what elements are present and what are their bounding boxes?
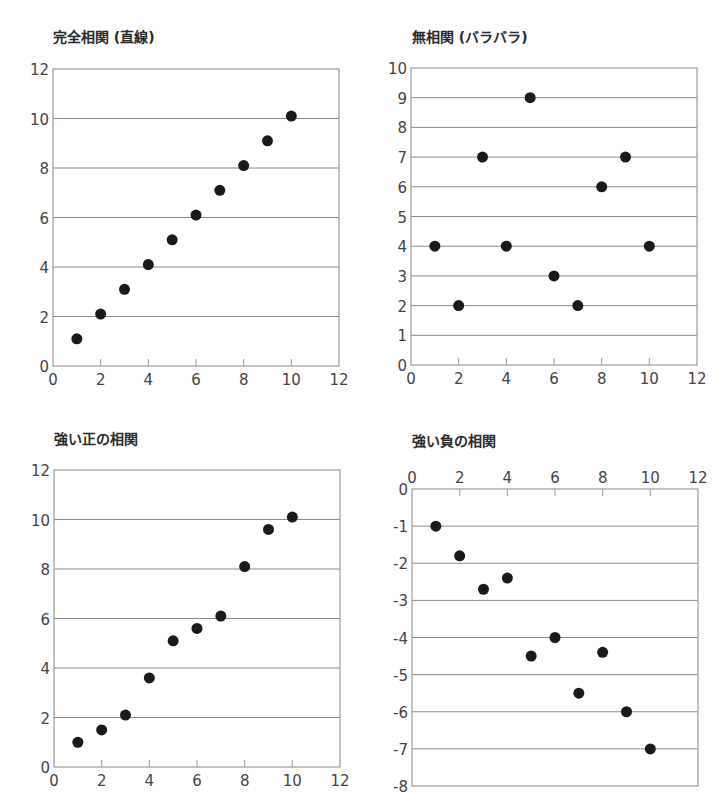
x-tick-label: 0	[407, 469, 417, 487]
data-point	[621, 706, 632, 717]
y-tick-label: -3	[393, 592, 408, 610]
y-tick-label: -2	[393, 555, 408, 573]
y-tick-label: -7	[393, 741, 408, 759]
x-tick-label: 6	[550, 469, 560, 487]
data-point	[454, 550, 465, 561]
y-tick-label: -6	[393, 704, 408, 722]
data-point	[430, 521, 441, 532]
scatter-chart-strong-negative: 0-1-2-3-4-5-6-7-8024681012	[0, 0, 723, 812]
y-tick-label: -5	[393, 667, 408, 685]
x-tick-label: 12	[688, 469, 707, 487]
data-point	[573, 688, 584, 699]
x-tick-label: 8	[598, 469, 608, 487]
y-tick-label: -1	[393, 518, 408, 536]
data-point	[502, 573, 513, 584]
x-tick-label: 10	[641, 469, 660, 487]
x-tick-label: 4	[503, 469, 513, 487]
data-point	[550, 632, 561, 643]
data-point	[526, 651, 537, 662]
data-point	[645, 743, 656, 754]
y-tick-label: -4	[393, 630, 408, 648]
data-point	[478, 584, 489, 595]
y-tick-label: -8	[393, 778, 408, 796]
data-point	[597, 647, 608, 658]
x-tick-label: 2	[455, 469, 465, 487]
